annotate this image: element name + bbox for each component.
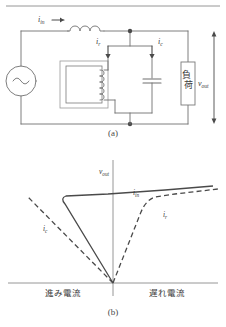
vout-arrow-head-bottom (212, 119, 217, 125)
x-axis-left-label: 進み電流 (45, 288, 81, 298)
load-label-char1: 負 (182, 69, 191, 80)
figure-svg: iin ir ic vout 負 荷 vout iin (0, 0, 226, 327)
ac-source-sine-icon (13, 78, 29, 84)
load-label: 負 荷 (182, 69, 194, 90)
caption-b: (b) (0, 307, 226, 317)
chart-y-axis-label: vout (99, 167, 110, 177)
transformer-case (60, 61, 108, 108)
figure-container: iin ir ic vout 負 荷 vout iin (0, 0, 226, 327)
annotation-i-in: iin (133, 188, 140, 198)
curve-i-c (27, 196, 113, 283)
curve-i-in (63, 186, 213, 283)
x-axis-right-label: 遅れ電流 (149, 288, 185, 298)
series-inductor-icon (68, 26, 104, 31)
i-in-arrow-head (60, 18, 64, 23)
i-c-label: ic (158, 37, 163, 47)
caption-a: (a) (0, 128, 226, 138)
i-in-label: iin (38, 15, 45, 25)
i-c-arrow-head (149, 54, 154, 59)
vout-label-circuit: vout (198, 79, 209, 89)
characteristic-chart: vout iin ir ic 進み電流 遅れ電流 (8, 160, 218, 298)
i-r-arrow-head (105, 54, 110, 59)
transformer-core (66, 66, 102, 103)
load-label-char2: 荷 (184, 80, 193, 90)
vout-arrow-head-top (212, 31, 217, 37)
annotation-i-r: ir (163, 210, 168, 220)
node-top (128, 29, 132, 33)
curve-i-r (113, 189, 218, 283)
circuit-labels: iin ir ic vout 負 荷 (38, 15, 209, 90)
i-r-label: ir (96, 37, 101, 47)
annotation-i-c: ic (43, 224, 48, 234)
